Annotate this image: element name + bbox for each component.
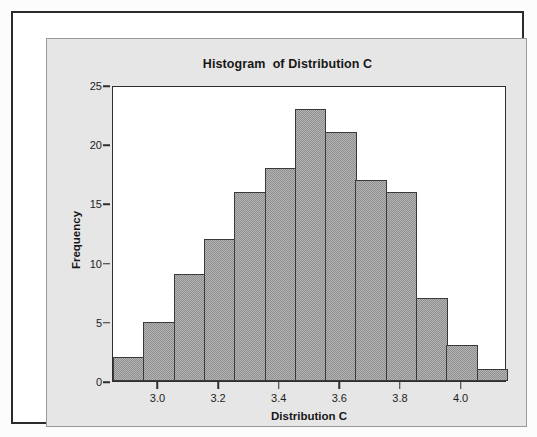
y-tick-label: 25 bbox=[90, 80, 102, 92]
x-tick-mark bbox=[278, 382, 280, 389]
histogram-bar bbox=[355, 180, 387, 381]
y-tick-label: 0 bbox=[96, 376, 102, 388]
histogram-bar bbox=[113, 357, 145, 381]
y-tick-mark bbox=[103, 263, 110, 265]
histogram-bar bbox=[174, 274, 206, 381]
y-tick-label: 20 bbox=[90, 139, 102, 151]
y-axis-title: Frequency bbox=[70, 185, 82, 295]
y-tick-mark bbox=[103, 381, 110, 383]
histogram-bars bbox=[113, 87, 505, 381]
x-tick-mark bbox=[399, 382, 401, 389]
x-tick-label: 3.8 bbox=[392, 392, 407, 404]
histogram-bar bbox=[265, 168, 297, 381]
chart-title: Histogram of Distribution C bbox=[47, 57, 528, 71]
x-tick-label: 3.2 bbox=[210, 392, 225, 404]
y-axis: Frequency 0510152025 bbox=[47, 39, 112, 428]
x-tick-mark bbox=[460, 382, 462, 389]
x-tick-label: 4.0 bbox=[453, 392, 468, 404]
histogram-bar bbox=[477, 369, 509, 381]
x-axis-title: Distribution C bbox=[112, 410, 506, 422]
histogram-bar bbox=[204, 239, 236, 381]
x-tick-label: 3.0 bbox=[150, 392, 165, 404]
x-tick-mark bbox=[339, 382, 341, 389]
x-tick-label: 3.6 bbox=[332, 392, 347, 404]
y-tick-mark bbox=[103, 322, 110, 324]
histogram-bar bbox=[446, 345, 478, 381]
histogram-bar bbox=[386, 192, 418, 381]
histogram-bar bbox=[234, 192, 266, 381]
y-tick-label: 5 bbox=[96, 317, 102, 329]
histogram-page: Histogram of Distribution C Frequency 05… bbox=[0, 0, 537, 437]
histogram-bar bbox=[295, 109, 327, 381]
histogram-bar bbox=[416, 298, 448, 381]
y-tick-label: 10 bbox=[90, 258, 102, 270]
y-tick-mark bbox=[103, 204, 110, 206]
y-tick-label: 15 bbox=[90, 198, 102, 210]
y-tick-mark bbox=[103, 85, 110, 87]
x-tick-mark bbox=[217, 382, 219, 389]
y-tick-mark bbox=[103, 144, 110, 146]
outer-frame-border: Histogram of Distribution C Frequency 05… bbox=[11, 11, 524, 424]
histogram-bar bbox=[143, 322, 175, 381]
x-tick-mark bbox=[157, 382, 159, 389]
x-tick-label: 3.4 bbox=[271, 392, 286, 404]
plot-area bbox=[112, 86, 506, 382]
x-axis: Distribution C 3.03.23.43.63.84.0 bbox=[112, 382, 506, 428]
chart-panel: Histogram of Distribution C Frequency 05… bbox=[46, 38, 527, 427]
histogram-bar bbox=[325, 132, 357, 381]
